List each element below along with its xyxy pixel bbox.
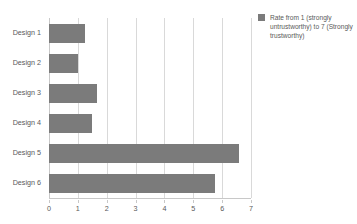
- bar-row: [49, 18, 251, 48]
- x-axis-tick-label: 5: [191, 204, 195, 213]
- x-axis-tick-label: 3: [134, 204, 138, 213]
- x-axis-tick: [164, 200, 165, 203]
- x-axis-tick: [251, 200, 252, 203]
- gridline: [251, 18, 252, 198]
- x-axis-tick: [107, 200, 108, 203]
- bar[interactable]: [49, 24, 85, 43]
- x-axis-tick: [222, 200, 223, 203]
- x-axis-line: [49, 198, 251, 199]
- y-axis-tick-label: Design 6: [0, 168, 45, 198]
- y-axis-tick-label: Design 5: [0, 138, 45, 168]
- y-axis: Design 1 Design 2 Design 3 Design 4 Desi…: [0, 18, 45, 198]
- y-axis-tick-label: Design 1: [0, 18, 45, 48]
- plot-area: [49, 18, 251, 198]
- legend: Rate from 1 (strongly untrustworthy) to …: [258, 13, 354, 40]
- x-axis-tick-label: 2: [105, 204, 109, 213]
- bar-row: [49, 168, 251, 198]
- x-axis: 01234567: [49, 200, 251, 214]
- x-axis-tick: [78, 200, 79, 203]
- bar-chart: Design 1 Design 2 Design 3 Design 4 Desi…: [0, 0, 357, 224]
- bar-row: [49, 48, 251, 78]
- bars-layer: [49, 18, 251, 198]
- bar[interactable]: [49, 174, 215, 193]
- y-axis-tick-label: Design 2: [0, 48, 45, 78]
- y-axis-tick-label: Design 4: [0, 108, 45, 138]
- x-axis-tick-label: 4: [162, 204, 166, 213]
- x-axis-tick-label: 0: [47, 204, 51, 213]
- legend-swatch-icon: [258, 14, 265, 21]
- x-axis-tick-label: 1: [76, 204, 80, 213]
- bar[interactable]: [49, 144, 239, 163]
- bar[interactable]: [49, 114, 92, 133]
- y-axis-tick-label: Design 3: [0, 78, 45, 108]
- x-axis-tick-label: 7: [249, 204, 253, 213]
- x-axis-tick-label: 6: [220, 204, 224, 213]
- x-axis-tick: [136, 200, 137, 203]
- bar-row: [49, 138, 251, 168]
- x-axis-tick: [49, 200, 50, 203]
- x-axis-tick: [193, 200, 194, 203]
- bar-row: [49, 108, 251, 138]
- legend-label: Rate from 1 (strongly untrustworthy) to …: [270, 13, 354, 40]
- bar-row: [49, 78, 251, 108]
- bar[interactable]: [49, 54, 78, 73]
- bar[interactable]: [49, 84, 97, 103]
